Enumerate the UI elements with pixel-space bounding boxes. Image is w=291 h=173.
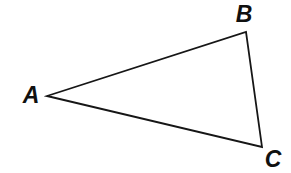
- vertex-label-a: A: [23, 84, 40, 107]
- triangle-outline: [47, 32, 262, 147]
- vertex-label-b: B: [236, 3, 253, 26]
- triangle-figure-canvas: A B C: [0, 0, 291, 173]
- vertex-label-c: C: [265, 148, 282, 171]
